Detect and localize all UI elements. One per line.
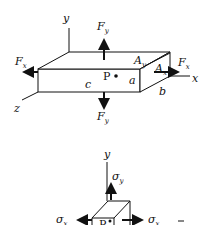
sigma-x-left-label: σx (56, 213, 68, 225)
sigma-y-label: σy (112, 170, 125, 185)
axis-x-label: x (192, 72, 199, 85)
sigma-x-right-label: σx (148, 213, 160, 225)
fy-top-label: Fy (96, 20, 110, 35)
axis-y-label-bottom: y (103, 148, 111, 161)
fx-left-label: Fx (14, 55, 27, 70)
dim-c-label: c (85, 78, 91, 91)
axis-y-label: y (62, 12, 70, 25)
dim-a-label: a (129, 74, 136, 87)
stress-diagram: y x z Fy Fy Fx Fx Ay Ax a b c P y σy σx … (0, 0, 211, 225)
point-p-label-bottom: P (99, 218, 107, 225)
fy-bottom-label: Fy (96, 110, 110, 125)
point-p-label: P (103, 70, 111, 83)
fx-right-label: Fx (177, 56, 190, 71)
dim-b-label: b (159, 85, 166, 98)
point-p-dot (114, 74, 118, 78)
axis-z-label: z (13, 102, 20, 115)
z-axis (22, 92, 38, 100)
